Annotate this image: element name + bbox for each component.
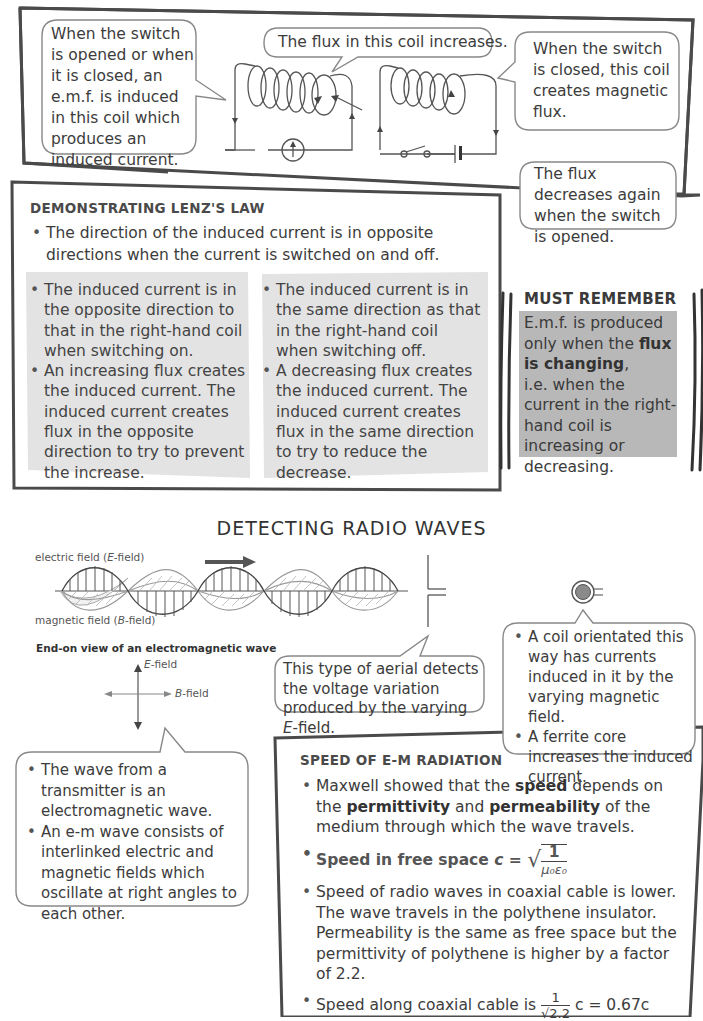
speed-free-space-fraction: 1μ₀ε₀ [541, 844, 567, 877]
coil-callout: A coil orientated this way has currents … [512, 627, 694, 787]
b-field-label-italic: B [118, 614, 125, 626]
lenz-right-bullet-1: The induced current is in the same direc… [260, 280, 482, 361]
speed-b4-num: 1 [541, 991, 570, 1006]
e-field-label-italic: E [107, 551, 114, 563]
axis-b-label: B-field [175, 687, 209, 699]
speed-bullet-maxwell: Maxwell showed that the speed depends on… [300, 776, 682, 838]
b-field-label-end: -field) [125, 614, 156, 626]
dipole-aerial [428, 555, 446, 627]
axis-e-text: -field [151, 658, 177, 670]
speed-bullet-coaxial-speed: Speed along coaxial cable is 1√2.2 c = 0… [300, 991, 682, 1020]
speed-b1-bold-speed: speed [515, 777, 567, 795]
speed-coaxial-fraction: 1√2.2 [541, 991, 570, 1020]
speed-b2-num: 1 [541, 845, 567, 863]
lenz-heading: DEMONSTRATING LENZ'S LAW [30, 200, 265, 216]
speed-b2-eq: = [503, 850, 527, 868]
coil-callout-bullet-1: A coil orientated this way has currents … [512, 627, 694, 727]
callout-flux-increases: The flux in this coil increases. [278, 32, 492, 53]
must-remember-box: E.m.f. is produced only when the flux is… [519, 311, 677, 457]
speed-b2-label: Speed in free space [316, 850, 494, 868]
speed-bullet-coaxial: Speed of radio waves in coaxial cable is… [300, 882, 682, 985]
lenz-left-panel: The induced current is in the opposite d… [28, 280, 246, 483]
speed-b4-den: √2.2 [541, 1006, 570, 1020]
speed-b1-bold-permittivity: permittivity [346, 798, 450, 816]
speed-b1-c: and [450, 798, 489, 816]
lenz-right-panel: The induced current is in the same direc… [260, 280, 482, 483]
lenz-right-bullet-2: A decreasing flux creates the induced cu… [260, 361, 482, 483]
radio-title: DETECTING RADIO WAVES [0, 517, 703, 539]
aerial-callout-end: -field. [292, 719, 335, 737]
wave-callout: The wave from a transmitter is an electr… [25, 760, 247, 924]
speed-b2-den: μ₀ε₀ [541, 862, 567, 876]
callout-coil-creates-flux-text: When the switch is closed, this coil cre… [533, 39, 673, 123]
e-field-label-end: -field) [114, 551, 145, 563]
axis-b-text: -field [182, 687, 208, 699]
em-wave-diagram [55, 556, 408, 617]
right-coil-circuit [380, 66, 496, 163]
speed-content: Maxwell showed that the speed depends on… [300, 776, 682, 1020]
sqrt-icon: √ [527, 847, 541, 872]
lenz-intro-bullet: The direction of the induced current is … [30, 222, 470, 266]
e-field-label: electric field (E-field) [35, 551, 144, 563]
callout-switch-emf: When the switch is opened or when it is … [51, 24, 196, 171]
b-field-label-text: magnetic field ( [35, 614, 118, 626]
must-remember-text-2: , [624, 355, 629, 373]
lenz-intro: The direction of the induced current is … [30, 222, 470, 266]
wave-callout-bullet-2: An e-m wave consists of interlinked elec… [25, 822, 247, 925]
end-on-title: End-on view of an electromagnetic wave [36, 642, 276, 654]
e-field-label-text: electric field ( [35, 551, 107, 563]
axis-e-italic: E [144, 658, 151, 670]
end-on-axes [108, 670, 168, 727]
callout-switch-emf-text: When the switch is opened or when it is … [51, 24, 196, 171]
aerial-callout-text: This type of aerial detects the voltage … [283, 660, 479, 717]
callout-coil-creates-flux: When the switch is closed, this coil cre… [533, 39, 673, 123]
lenz-left-bullet-2: An increasing flux creates the induced c… [28, 361, 246, 483]
coil-end-on-icon [572, 581, 603, 603]
axis-e-label: E-field [144, 658, 177, 670]
speed-bullet-free-space: Speed in free space c = √1μ₀ε₀ [300, 844, 682, 877]
speed-b1-a: Maxwell showed that the [316, 777, 515, 795]
b-field-label: magnetic field (B-field) [35, 614, 155, 626]
callout-flux-decreases-text: The flux decreases again when the switch… [534, 164, 674, 248]
must-remember-heading: MUST REMEMBER [524, 290, 676, 308]
speed-heading: SPEED OF E-M RADIATION [300, 752, 502, 768]
speed-b1-bold-permeability: permeability [489, 798, 600, 816]
lenz-left-bullet-1: The induced current is in the opposite d… [28, 280, 246, 361]
wave-callout-bullet-1: The wave from a transmitter is an electr… [25, 760, 247, 822]
callout-flux-increases-text: The flux in this coil increases. [278, 32, 492, 53]
aerial-callout: This type of aerial detects the voltage … [283, 660, 483, 738]
speed-b4-b: c = 0.67c [570, 996, 649, 1014]
speed-b4-a: Speed along coaxial cable is [316, 996, 541, 1014]
callout-flux-decreases: The flux decreases again when the switch… [534, 164, 674, 248]
